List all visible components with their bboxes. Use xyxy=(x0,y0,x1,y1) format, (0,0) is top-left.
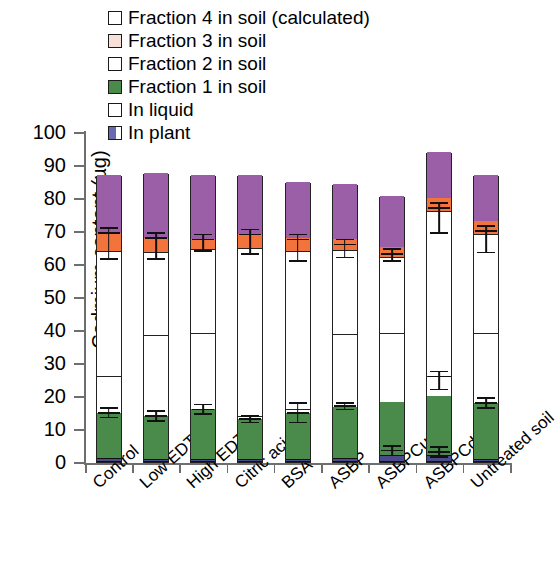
y-tick-label-50: 50 xyxy=(8,287,66,307)
error-bar-mean-cap xyxy=(98,412,120,414)
legend-item-fraction-4: Fraction 4 in soil (calculated) xyxy=(108,6,370,29)
y-tick-60 xyxy=(74,264,85,266)
error-bar-high-edta-1 xyxy=(190,133,216,463)
y-tick-label-0: 0 xyxy=(8,452,66,472)
legend-label-fraction-4: Fraction 4 in soil (calculated) xyxy=(128,8,370,27)
error-bar-cap xyxy=(383,445,401,447)
error-bar-mean-cap xyxy=(145,415,167,417)
error-bar-cap xyxy=(289,422,307,424)
error-bar-cap xyxy=(336,409,354,411)
y-tick-100 xyxy=(74,132,85,134)
y-tick-label-90: 90 xyxy=(8,155,66,175)
error-bar-cap xyxy=(147,410,165,412)
y-tick-label-60: 60 xyxy=(8,254,66,274)
y-tick-label-20: 20 xyxy=(8,386,66,406)
y-tick-40 xyxy=(74,330,85,332)
legend-item-fraction-2: Fraction 2 in soil xyxy=(108,52,370,75)
legend-swatch-fraction-1 xyxy=(108,80,122,94)
chart-legend: Fraction 4 in soil (calculated) Fraction… xyxy=(108,6,370,144)
y-tick-label-80: 80 xyxy=(8,188,66,208)
error-bar-cap xyxy=(194,404,212,406)
error-bar-asbp-1 xyxy=(332,133,358,463)
plot-area xyxy=(85,133,510,463)
y-tick-70 xyxy=(74,231,85,233)
error-bar-control-1 xyxy=(96,133,122,463)
legend-swatch-fraction-4 xyxy=(108,11,122,25)
error-bar-asbpcu-1 xyxy=(379,133,405,463)
error-bar-mean-cap xyxy=(381,450,403,452)
x-tick-5 xyxy=(321,464,323,473)
y-tick-label-40: 40 xyxy=(8,320,66,340)
y-tick-50 xyxy=(74,297,85,299)
error-bar-cap xyxy=(383,455,401,457)
legend-label-in-liquid: In liquid xyxy=(128,100,194,119)
error-bar-asbpcd-2 xyxy=(426,133,452,463)
error-bar-mean-cap xyxy=(334,405,356,407)
y-tick-90 xyxy=(74,165,85,167)
error-bar-mean-cap xyxy=(475,402,497,404)
error-bar-bsa-1 xyxy=(285,133,311,463)
error-bar-mean-cap xyxy=(239,418,261,420)
error-bar-cap xyxy=(241,422,259,424)
x-tick-0 xyxy=(85,464,87,473)
error-bar-untreated-soil-1 xyxy=(473,133,499,463)
y-tick-label-10: 10 xyxy=(8,419,66,439)
error-bar-cap xyxy=(194,413,212,415)
error-bar-cap xyxy=(477,407,495,409)
y-tick-10 xyxy=(74,429,85,431)
legend-swatch-fraction-2 xyxy=(108,57,122,71)
error-bar-cap xyxy=(477,397,495,399)
legend-swatch-fraction-3 xyxy=(108,34,122,48)
y-tick-30 xyxy=(74,363,85,365)
error-bar-cap xyxy=(100,417,118,419)
legend-label-fraction-3: Fraction 3 in soil xyxy=(128,31,266,50)
error-bar-mean-cap xyxy=(287,412,309,414)
legend-item-fraction-3: Fraction 3 in soil xyxy=(108,29,370,52)
error-bar-cap xyxy=(100,407,118,409)
legend-label-fraction-2: Fraction 2 in soil xyxy=(128,54,266,73)
error-bar-citric-acid-1 xyxy=(237,133,263,463)
y-tick-label-30: 30 xyxy=(8,353,66,373)
legend-item-fraction-1: Fraction 1 in soil xyxy=(108,75,370,98)
error-bar-low-edta-1 xyxy=(143,133,169,463)
error-bar-cap xyxy=(147,420,165,422)
y-tick-0 xyxy=(74,462,85,464)
y-tick-80 xyxy=(74,198,85,200)
error-bar-cap xyxy=(241,415,259,417)
error-bar-mean-cap xyxy=(192,409,214,411)
y-tick-label-100: 100 xyxy=(8,122,66,142)
y-tick-label-70: 70 xyxy=(8,221,66,241)
error-bar-cap xyxy=(430,456,448,458)
error-bar-cap xyxy=(336,402,354,404)
error-bar-mean-cap xyxy=(428,451,450,453)
legend-swatch-in-liquid xyxy=(108,103,122,117)
error-bar-cap xyxy=(430,446,448,448)
legend-label-fraction-1: Fraction 1 in soil xyxy=(128,77,266,96)
y-tick-20 xyxy=(74,396,85,398)
error-bar-stem xyxy=(297,404,299,424)
y-axis-tick-labels: 1009080706050403020100 xyxy=(8,0,66,577)
error-bar-cap xyxy=(289,402,307,404)
legend-item-in-liquid: In liquid xyxy=(108,98,370,121)
